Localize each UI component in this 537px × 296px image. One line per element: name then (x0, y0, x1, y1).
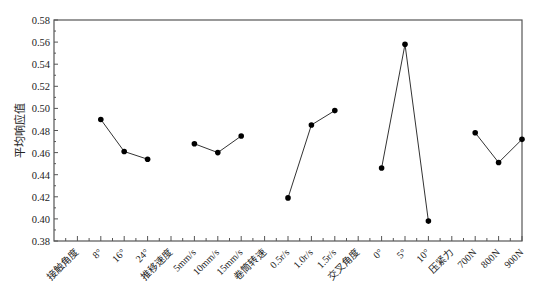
data-point (192, 141, 198, 147)
data-point (121, 149, 127, 155)
x-tick-label: 900N (502, 247, 526, 271)
series-line (472, 130, 524, 165)
data-point (98, 117, 104, 123)
data-point (215, 150, 221, 156)
x-tick-label: 800N (479, 247, 503, 271)
plot-frame (54, 20, 522, 241)
x-tick-label: 700N (455, 247, 479, 271)
data-point (332, 108, 338, 114)
x-tick-label: 10° (414, 247, 432, 265)
series-line (192, 133, 244, 155)
x-tick-label: 16° (110, 247, 128, 265)
main-effects-chart: 0.380.400.420.440.460.480.500.520.540.56… (0, 0, 537, 296)
y-tick-label: 0.54 (32, 59, 51, 70)
data-point (309, 122, 315, 128)
y-tick-label: 0.50 (32, 103, 50, 114)
y-tick-label: 0.44 (32, 170, 51, 181)
data-point (285, 195, 291, 201)
chart-axes (54, 20, 522, 241)
data-point (402, 42, 408, 48)
y-tick-label: 0.52 (32, 81, 50, 92)
data-point (426, 218, 432, 224)
data-point (145, 156, 151, 162)
y-tick-label: 0.56 (32, 37, 50, 48)
data-point (519, 137, 525, 143)
data-series (98, 42, 525, 224)
y-tick-label: 0.42 (32, 192, 50, 203)
data-point (238, 133, 244, 139)
y-axis-label: 平均响应值 (13, 103, 26, 158)
y-tick-label: 0.40 (32, 214, 50, 225)
y-tick-label: 0.48 (32, 126, 50, 137)
x-axis-ticks: 接触角度8°16°24°推移速度5mm/s10mm/s15mm/s卷筒转速0.5… (44, 236, 525, 283)
series-line (379, 42, 431, 224)
x-factor-label: 压紧力 (426, 246, 456, 276)
data-point (496, 160, 502, 166)
y-tick-label: 0.46 (32, 148, 50, 159)
x-factor-label: 接触角度 (44, 246, 81, 283)
data-point (472, 130, 478, 136)
x-tick-label: 5° (394, 247, 408, 261)
series-line (285, 108, 337, 201)
y-tick-label: 0.38 (32, 236, 50, 247)
series-line (98, 117, 150, 162)
x-tick-label: 0° (371, 247, 385, 261)
x-tick-label: 8° (90, 247, 104, 261)
data-point (379, 165, 385, 171)
x-tick-label: 1.0r/s (291, 247, 315, 271)
x-tick-label: 0.5r/s (268, 247, 292, 271)
x-tick-label: 24° (133, 247, 151, 265)
y-tick-label: 0.58 (32, 15, 50, 26)
